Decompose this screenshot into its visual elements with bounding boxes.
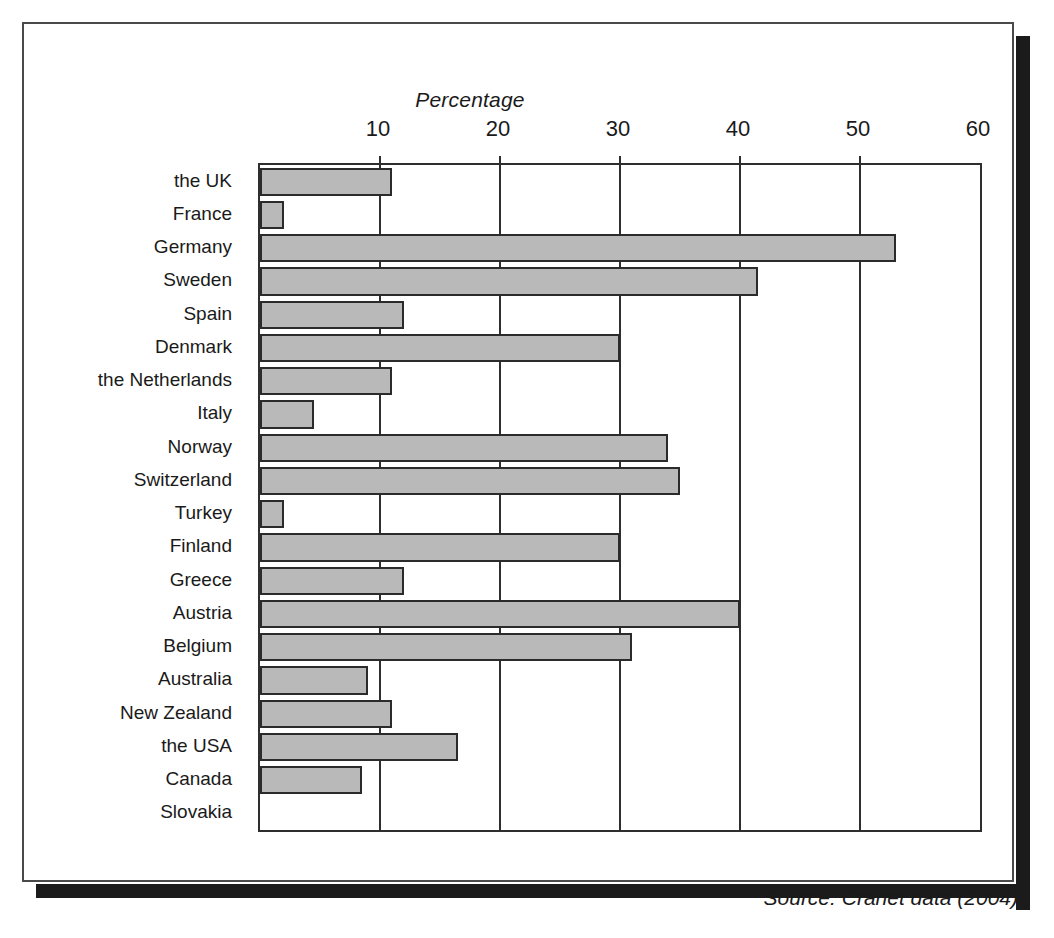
category-label: Norway [60, 437, 232, 456]
figure-shadow-right [1016, 36, 1030, 910]
category-label: Denmark [60, 337, 232, 356]
gridline [619, 165, 621, 830]
x-axis-tickmark [739, 156, 741, 165]
category-label: Turkey [60, 503, 232, 522]
category-label: Germany [60, 237, 232, 256]
category-label: the UK [60, 171, 232, 190]
chart-axis-title: Percentage [0, 88, 940, 112]
category-label: Canada [60, 769, 232, 788]
bar [260, 700, 392, 728]
bar [260, 533, 620, 561]
x-axis-tickmark [619, 156, 621, 165]
bar [260, 267, 758, 295]
category-axis-labels: the UKFranceGermanySwedenSpainDenmarkthe… [60, 163, 232, 828]
bar [260, 434, 668, 462]
category-label: Switzerland [60, 470, 232, 489]
bar [260, 201, 284, 229]
x-axis-tickmark [859, 156, 861, 165]
bar [260, 666, 368, 694]
bar [260, 500, 284, 528]
bar [260, 600, 740, 628]
bar [260, 234, 896, 262]
bar [260, 467, 680, 495]
category-label: Slovakia [60, 802, 232, 821]
bar [260, 766, 362, 794]
bar [260, 301, 404, 329]
category-label: France [60, 204, 232, 223]
gridline [739, 165, 741, 830]
bar [260, 733, 458, 761]
category-label: Finland [60, 536, 232, 555]
bar [260, 334, 620, 362]
bar [260, 367, 392, 395]
category-label: New Zealand [60, 703, 232, 722]
category-label: Austria [60, 603, 232, 622]
gridline [379, 165, 381, 830]
category-label: Belgium [60, 636, 232, 655]
bar [260, 633, 632, 661]
category-label: Spain [60, 304, 232, 323]
bar [260, 168, 392, 196]
category-label: the USA [60, 736, 232, 755]
category-label: Sweden [60, 270, 232, 289]
category-label: Italy [60, 403, 232, 422]
plot-area [258, 163, 982, 832]
bar [260, 400, 314, 428]
x-axis-tickmark [379, 156, 381, 165]
category-label: Greece [60, 570, 232, 589]
x-axis-tickmark [499, 156, 501, 165]
category-label: the Netherlands [60, 370, 232, 389]
bar [260, 567, 404, 595]
gridline [499, 165, 501, 830]
source-note: Source: Cranet data (2004) [764, 886, 1018, 910]
gridline [859, 165, 861, 830]
category-label: Australia [60, 669, 232, 688]
